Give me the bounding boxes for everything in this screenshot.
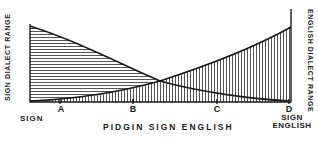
pidgin-sign-english-diagram: [0, 0, 318, 142]
sign-dialect-range-label: SIGN DIALECT RANGE: [4, 14, 11, 101]
sign-english-end-label-line2: ENGLISH: [272, 121, 312, 130]
sign-end-label: SIGN: [20, 114, 44, 123]
x-axis-title: PIDGIN SIGN ENGLISH: [103, 122, 234, 132]
english-dialect-range-label: ENGLISH DIALECT RANGE: [307, 9, 314, 112]
tick-label-c: C: [214, 104, 221, 114]
tick-label-b: B: [130, 104, 137, 114]
tick-label-a: A: [58, 104, 65, 114]
sign-english-end-label: SIGN ENGLISH: [272, 113, 312, 130]
